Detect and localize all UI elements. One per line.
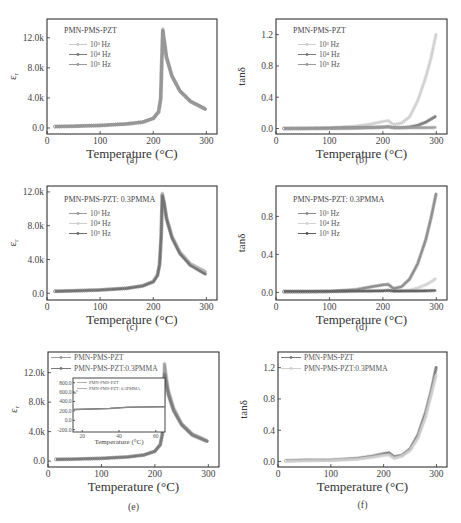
x-tick-label: 0 [274,302,279,312]
legend-label: 10⁵ Hz [319,229,340,238]
panel-a: 01002003000.04.0k8.0k12.0kTemperature (°… [6,19,217,166]
legend-entry: 10³ Hz [69,209,111,218]
legend-label: 10⁴ Hz [90,219,111,228]
y-tick-label: 0.0 [261,288,273,298]
x-tick-label: 200 [376,136,391,146]
legend-entry: 10³ Hz [69,40,111,49]
y-tick-label: 12.0k [23,33,45,43]
y-tick-label: 0.4 [263,426,275,436]
x-tick-label: 100 [322,136,337,146]
y-axis-label: tanδ [235,67,247,86]
y-axis-label: εr [7,405,21,413]
figure-canvas: 01002003000.04.0k8.0k12.0kTemperature (°… [0,0,461,523]
x-tick-label: 0 [46,469,51,479]
legend-entry: 10⁴ Hz [298,219,340,228]
y-tick-label: 0.0 [65,417,72,423]
y-tick-label: 0.0 [33,456,45,466]
legend-entry: PMN-PMS-PZT [281,353,354,362]
x-tick-label: 200 [148,469,163,479]
x-tick-label: 100 [322,302,337,312]
legend-entry: 10⁵ Hz [298,60,340,69]
panel-b: 01002003000.00.40.81.2Temperature (°C)ta… [235,19,447,166]
axes-frame [47,19,217,134]
sample-annotation: PMN-PMS-PZT [293,26,346,35]
panel-caption: (c) [126,321,137,333]
legend-entry: 10⁴ Hz [69,219,111,228]
legend-label: PMN-PMS-PZT:0.3PMMA [74,364,158,373]
legend-entry: 10³ Hz [298,209,340,218]
x-tick-label: 100 [94,469,109,479]
y-tick-label: 4.0k [27,255,44,265]
x-tick-label: 300 [429,302,444,312]
legend-label: 10³ Hz [90,40,111,49]
legend-label: 10⁴ Hz [319,219,340,228]
legend-entry: 10⁵ Hz [298,229,340,238]
legend-entry: 10⁵ Hz [69,229,111,238]
panel-e: 01002003000.04.0k8.0k12.0kTemperature (°… [7,352,219,513]
inset-legend-label: PMN-PMS-PZT: 0.3PMMA [89,386,141,391]
x-tick-label: 100 [93,136,108,146]
series-pmn-pms-pzt [284,366,437,462]
sample-annotation: PMN-PMS-PZT [64,26,117,35]
y-tick-label: 0.4 [261,250,273,260]
y-tick-label: 1.2 [263,363,275,373]
plot-area [54,192,207,293]
legend-entry: 10⁵ Hz [69,60,111,69]
y-tick-label: 0.0 [263,457,275,467]
x-tick-label: 100 [324,469,339,479]
axes-frame [276,19,447,134]
y-axis-label: tanδ [235,234,247,253]
x-tick-label: 300 [199,136,214,146]
panel-caption: (f) [358,499,368,511]
y-tick-label: 0.8 [261,212,273,222]
x-tick-label: 300 [201,469,216,479]
legend-entry: PMN-PMS-PZT [51,353,124,362]
legend-label: PMN-PMS-PZT [74,353,124,362]
series-10-hz [54,192,207,293]
x-tick-label: 0 [45,136,50,146]
y-tick-label: 8.0k [27,221,44,231]
inset-chart: 204060-200.00.0200.0400.0600.0800.0PMN-P… [57,378,165,446]
panel-caption: (a) [126,154,137,166]
series-10-hz [54,27,207,128]
y-tick-label: 400.0 [59,398,72,404]
sample-annotation: PMN-PMS-PZT: 0.3PMMA [64,195,155,204]
y-tick-label: 0.4 [261,93,273,103]
x-tick-label: 60 [153,433,159,439]
panel-caption: (e) [128,501,139,513]
x-tick-label: 300 [199,302,214,312]
y-tick-label: 200.0 [59,408,72,414]
y-tick-label: 1.2 [261,30,273,40]
series-10-hz [283,193,438,294]
series-10-hz [283,289,437,293]
y-axis-label: tanδ [237,400,249,419]
panel-caption: (b) [356,154,368,166]
panel-d: 01002003000.00.40.8Temperature (°C)tanδ(… [235,186,447,333]
x-tick-label: 200 [376,302,391,312]
y-tick-label: -200.0 [57,427,71,433]
sample-annotation: PMN-PMS-PZT: 0.3PMMA [293,195,384,204]
panel-c: 01002003000.04.0k8.0k12.0kTemperature (°… [6,186,217,333]
series-10-hz [54,193,207,293]
legend-label: PMN-PMS-PZT:0.3PMMA [304,364,388,373]
x-tick-label: 200 [146,136,161,146]
x-tick-label: 0 [274,136,279,146]
y-tick-label: 4.0k [28,427,45,437]
x-tick-label: 0 [45,302,50,312]
legend-entry: PMN-PMS-PZT:0.3PMMA [281,364,388,373]
y-tick-label: 8.0k [27,63,44,73]
legend-entry: 10⁴ Hz [298,50,340,59]
legend-entry: 10³ Hz [298,40,340,49]
inset-x-axis-label: Temperature (°C) [94,438,144,446]
y-axis-label: εr [6,72,20,80]
x-axis-label: Temperature (°C) [317,479,408,494]
y-tick-label: 800.0 [59,380,72,386]
legend-label: 10³ Hz [319,40,340,49]
x-tick-label: 300 [429,469,444,479]
series-10-hz [54,29,207,128]
legend-label: 10⁵ Hz [90,229,111,238]
x-axis-label: Temperature (°C) [88,479,179,494]
legend-label: PMN-PMS-PZT [304,353,354,362]
series-10-hz [54,194,207,293]
y-tick-label: 8.0k [28,397,45,407]
